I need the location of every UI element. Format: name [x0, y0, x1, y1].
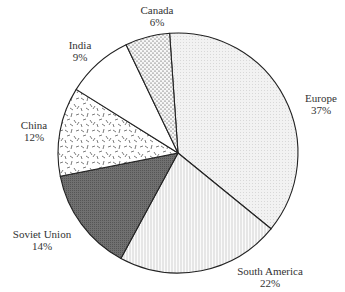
label-canada-pct: 6%: [135, 16, 179, 28]
label-europe: Europe 37%: [299, 92, 343, 116]
label-china: China 12%: [14, 119, 54, 143]
label-south-america: South America 22%: [230, 265, 310, 289]
label-china-name: China: [14, 119, 54, 131]
label-south-america-pct: 22%: [230, 277, 310, 289]
label-south-america-name: South America: [230, 265, 310, 277]
label-europe-name: Europe: [299, 92, 343, 104]
label-india-pct: 9%: [60, 51, 100, 63]
label-canada: Canada 6%: [135, 4, 179, 28]
label-india-name: India: [60, 39, 100, 51]
label-europe-pct: 37%: [299, 104, 343, 116]
label-china-pct: 12%: [14, 131, 54, 143]
label-soviet-union: Soviet Union 14%: [6, 228, 78, 252]
label-india: India 9%: [60, 39, 100, 63]
label-canada-name: Canada: [135, 4, 179, 16]
label-soviet-union-name: Soviet Union: [6, 228, 78, 240]
label-soviet-union-pct: 14%: [6, 240, 78, 252]
